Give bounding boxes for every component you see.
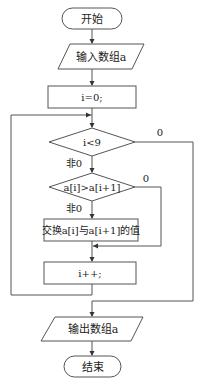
start-terminal: 开始 bbox=[62, 8, 122, 29]
outer-condition-label: i<9 bbox=[83, 137, 101, 148]
arrow-head bbox=[90, 123, 95, 128]
output-parallelogram: 输出数组a bbox=[41, 317, 143, 341]
arrow-head bbox=[90, 39, 95, 44]
arrow-head bbox=[90, 168, 95, 173]
input-parallelogram: 输入数组a bbox=[58, 44, 144, 69]
arrow-head bbox=[90, 257, 95, 262]
increment-process: i++; bbox=[44, 262, 136, 284]
input-label: 输入数组a bbox=[76, 50, 127, 64]
arrow-head bbox=[93, 244, 98, 249]
inner-yes-label: 非0 bbox=[66, 203, 82, 214]
init-process: i=0; bbox=[48, 86, 136, 108]
inner-condition-label: a[i]>a[i+1] bbox=[63, 182, 120, 193]
arrow-head bbox=[86, 113, 91, 118]
end-label: 结束 bbox=[82, 361, 104, 374]
outer-condition-diamond: i<9 bbox=[49, 128, 135, 156]
swap-process: 交换a[i]与a[i+1]的值 bbox=[42, 219, 141, 241]
outer-no-label: 0 bbox=[157, 127, 163, 138]
init-label: i=0; bbox=[81, 92, 102, 103]
arrow-head bbox=[90, 351, 95, 356]
arrow-head bbox=[90, 214, 95, 219]
flowchart-canvas: 开始 输入数组a i=0; i<9 0 非0 a[i]>a[i+1] 0 bbox=[0, 0, 202, 386]
arrow-head bbox=[90, 312, 95, 317]
increment-label: i++; bbox=[78, 268, 101, 279]
end-terminal: 结束 bbox=[64, 356, 121, 377]
inner-condition-diamond: a[i]>a[i+1] bbox=[49, 173, 135, 201]
output-label: 输出数组a bbox=[68, 322, 119, 336]
start-label: 开始 bbox=[81, 12, 103, 26]
outer-yes-label: 非0 bbox=[66, 158, 82, 169]
arrow-head bbox=[90, 81, 95, 86]
swap-label: 交换a[i]与a[i+1]的值 bbox=[42, 224, 141, 236]
inner-no-label: 0 bbox=[143, 173, 149, 184]
